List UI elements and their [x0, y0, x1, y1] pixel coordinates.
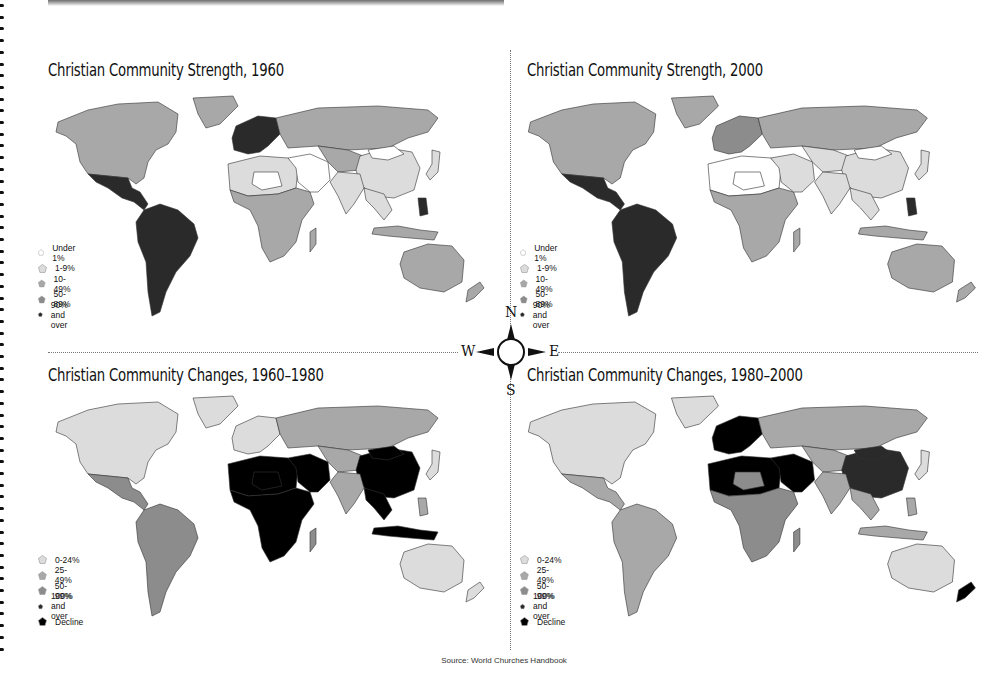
legend-item: 100% and over: [520, 599, 565, 615]
region-india: [330, 472, 364, 514]
pentagon-swatch-icon: [38, 264, 47, 273]
binding-mark: [0, 542, 4, 545]
binding-mark: [0, 144, 4, 147]
legend-item: 100% and over: [38, 599, 83, 615]
region-indonesia: [858, 226, 927, 240]
region-western-europe: [712, 116, 762, 154]
binding-mark: [0, 109, 4, 112]
compass-rose: N S W E: [456, 302, 566, 402]
region-madagascar: [794, 228, 800, 252]
binding-mark: [0, 156, 4, 159]
binding-mark: [0, 308, 4, 311]
region-north-america: [56, 102, 178, 184]
binding-mark: [0, 261, 4, 264]
pentagon-swatch-icon: [38, 602, 43, 611]
region-new-zealand: [466, 282, 484, 302]
pentagon-swatch-icon: [520, 617, 529, 626]
pentagon-swatch-icon: [520, 602, 525, 611]
pentagon-swatch-icon: [38, 617, 47, 626]
compass-east-label: E: [549, 343, 559, 359]
binding-mark: [0, 343, 4, 346]
binding-mark: [0, 133, 4, 136]
panel-title: Christian Community Strength, 1960: [48, 60, 284, 80]
region-greenland: [193, 396, 238, 428]
legend-item: Decline: [520, 614, 565, 630]
binding-mark: [0, 624, 4, 627]
pentagon-swatch-icon: [38, 571, 47, 580]
pentagon-swatch-icon: [520, 279, 528, 288]
binding-mark: [0, 577, 4, 580]
binding-mark: [0, 39, 4, 42]
region-india: [815, 472, 851, 514]
legend-label: Decline: [55, 617, 83, 627]
region-philippines: [906, 198, 916, 216]
binding-mark: [0, 121, 4, 124]
binding-mark: [0, 507, 4, 510]
binding-mark: [0, 519, 4, 522]
pentagon-swatch-icon: [38, 310, 43, 319]
region-japan: [426, 150, 440, 180]
legend-label: 1-9%: [55, 263, 75, 273]
legend-label: Decline: [537, 617, 565, 627]
region-madagascar: [310, 228, 316, 252]
binding-mark: [0, 460, 4, 463]
map-legend: 0-24%25-49%50-99%100% and overDecline: [38, 552, 83, 630]
binding-mark: [0, 367, 4, 370]
source-caption: Source: World Churches Handbook: [0, 656, 1008, 665]
region-russia: [276, 406, 438, 450]
binding-mark: [0, 98, 4, 101]
region-indonesia: [372, 526, 438, 540]
binding-mark: [0, 168, 4, 171]
compass-north-label: N: [505, 304, 517, 320]
panel-title: Christian Community Strength, 2000: [527, 60, 763, 80]
binding-mark: [0, 601, 4, 604]
world-map: [48, 92, 498, 324]
pentagon-swatch-icon: [520, 248, 526, 257]
region-sub-saharan-africa: [710, 188, 798, 262]
legend-item: Under 1%: [520, 245, 560, 261]
binding-mark: [0, 449, 4, 452]
legend-item: Under 1%: [38, 245, 78, 261]
region-russia: [758, 106, 927, 150]
legend-item: 90% and over: [38, 307, 78, 323]
binding-mark: [0, 636, 4, 639]
region-north-america: [528, 102, 655, 184]
binding-mark: [0, 402, 4, 405]
region-philippines: [906, 498, 916, 516]
region-greenland: [671, 396, 718, 428]
region-philippines: [418, 198, 428, 216]
region-sub-saharan-africa: [710, 488, 798, 562]
pentagon-swatch-icon: [38, 248, 44, 257]
binding-mark: [0, 531, 4, 534]
legend-label: Under 1%: [534, 243, 560, 263]
binding-mark: [0, 215, 4, 218]
binding-mark: [0, 414, 4, 417]
region-sub-saharan-africa: [230, 488, 314, 562]
binding-mark: [0, 273, 4, 276]
region-australia: [400, 244, 464, 292]
map-legend: 0-24%25-49%50-99%100% and overDecline: [520, 552, 565, 630]
region-south-america: [612, 504, 677, 616]
binding-mark: [0, 495, 4, 498]
panel-title: Christian Community Changes, 1960–1980: [48, 365, 324, 385]
binding-mark: [0, 484, 4, 487]
binding-mark: [0, 250, 4, 253]
region-japan: [915, 450, 930, 480]
binding-mark: [0, 86, 4, 89]
compass-west-label: W: [461, 343, 475, 359]
legend-label: 1-9%: [537, 263, 557, 273]
region-russia: [758, 406, 927, 450]
binding-mark: [0, 437, 4, 440]
region-north-america: [528, 402, 655, 484]
spiral-binding: [0, 0, 8, 679]
world-map: [520, 92, 990, 324]
pentagon-swatch-icon: [520, 264, 529, 273]
pentagon-swatch-icon: [38, 555, 47, 564]
region-indonesia: [858, 526, 927, 540]
region-australia: [400, 544, 464, 592]
map-legend: Under 1%1-9%10-49%50-89%90% and over: [38, 245, 78, 323]
binding-mark: [0, 648, 4, 651]
pentagon-swatch-icon: [38, 586, 47, 595]
world-map: [520, 392, 990, 624]
legend-label: 0-24%: [537, 555, 562, 565]
